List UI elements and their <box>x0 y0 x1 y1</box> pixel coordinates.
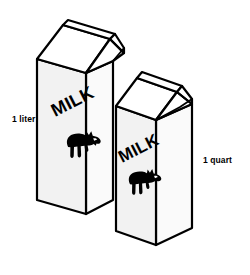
carton-illustration: MILK MILK <box>0 0 250 275</box>
milk-carton-figure: MILK MILK 1 liter 1 <box>0 0 250 275</box>
liter-carton-group: MILK <box>37 20 124 214</box>
liter-capacity-label: 1 liter <box>12 114 35 124</box>
quart-capacity-label: 1 quart <box>203 155 232 165</box>
quart-carton-group: MILK <box>115 72 192 245</box>
quart-carton-side-panel <box>156 104 192 245</box>
